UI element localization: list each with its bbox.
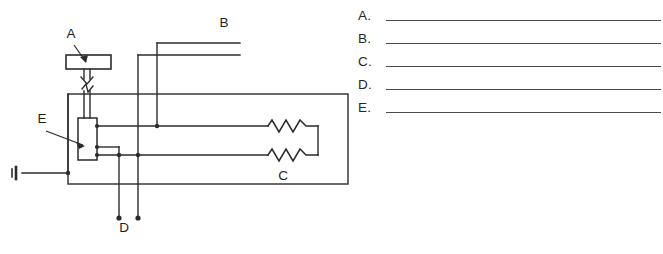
callout-label-e: E <box>37 111 46 126</box>
ground-terminal <box>12 167 16 179</box>
answer-line-b[interactable] <box>386 43 661 44</box>
answer-blank-list: A. B. C. D. E. <box>352 0 663 254</box>
internal-wiring <box>22 94 268 173</box>
answer-letter-a: A. <box>352 8 386 23</box>
circuit-diagram: A B C D E <box>0 0 350 254</box>
circuit-schematic-svg: A B C D E <box>0 0 350 254</box>
answer-line-c[interactable] <box>386 66 661 67</box>
control-knob <box>66 55 111 69</box>
callout-label-d: D <box>119 220 129 235</box>
answer-letter-b: B. <box>352 31 386 46</box>
answer-row-e[interactable]: E. <box>352 96 663 118</box>
answer-letter-d: D. <box>352 77 386 92</box>
resistor-lower <box>268 149 318 161</box>
variable-resistor-body <box>78 118 97 160</box>
answer-row-a[interactable]: A. <box>352 4 663 26</box>
answer-row-b[interactable]: B. <box>352 27 663 49</box>
answer-row-c[interactable]: C. <box>352 50 663 72</box>
answer-letter-e: E. <box>352 100 386 115</box>
worksheet-page: A B C D E A. B. C. D. E. <box>0 0 663 254</box>
lead-upper-secondary <box>138 55 240 155</box>
answer-line-d[interactable] <box>386 89 661 90</box>
answer-row-d[interactable]: D. <box>352 73 663 95</box>
callout-label-c: C <box>278 168 288 183</box>
answer-line-a[interactable] <box>386 20 661 21</box>
callout-label-a: A <box>66 26 75 41</box>
callout-label-b: B <box>219 15 228 30</box>
answer-line-e[interactable] <box>386 112 661 113</box>
junction-dots <box>66 124 159 221</box>
answer-letter-c: C. <box>352 54 386 69</box>
enclosure-box <box>68 94 348 184</box>
resistor-upper <box>268 120 318 132</box>
